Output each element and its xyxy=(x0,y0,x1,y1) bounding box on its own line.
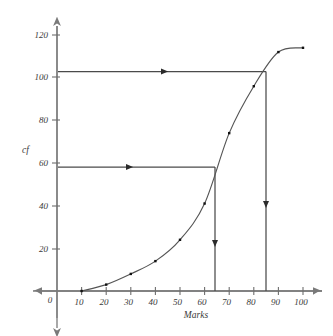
x-tick-label-50: 50 xyxy=(173,297,183,307)
x-tick-label-0: 0 xyxy=(48,295,53,305)
y-tick-label-60: 60 xyxy=(39,158,49,168)
x-tick-label-20: 20 xyxy=(100,297,110,307)
data-point-marker xyxy=(154,260,156,262)
data-point-marker xyxy=(105,283,107,285)
y-tick-label-40: 40 xyxy=(39,201,49,211)
y-tick-label-100: 100 xyxy=(35,72,49,82)
y-tick-label-120: 120 xyxy=(35,30,49,40)
y-tick-label-20: 20 xyxy=(39,244,49,254)
data-point-marker xyxy=(179,239,181,241)
data-point-marker xyxy=(228,132,230,134)
chart-canvas: 20 40 60 80 100 120 cf 0 10 20 30 40 xyxy=(0,0,333,336)
data-point-marker xyxy=(302,47,304,49)
x-tick-label-80: 80 xyxy=(247,297,257,307)
data-point-marker xyxy=(203,202,205,204)
data-point-marker xyxy=(253,85,255,87)
data-point-marker xyxy=(80,290,82,292)
x-tick-label-60: 60 xyxy=(198,297,208,307)
data-point-marker xyxy=(277,51,279,53)
data-point-marker xyxy=(130,273,132,275)
y-tick-label-80: 80 xyxy=(39,115,49,125)
x-tick-label-90: 90 xyxy=(271,297,281,307)
x-tick-label-70: 70 xyxy=(222,297,232,307)
x-tick-label-10: 10 xyxy=(75,297,85,307)
x-axis-title: Marks xyxy=(183,310,209,320)
x-tick-label-100: 100 xyxy=(294,297,308,307)
chart-background xyxy=(0,0,333,336)
x-tick-label-40: 40 xyxy=(149,297,159,307)
x-tick-label-30: 30 xyxy=(123,297,134,307)
ogive-chart-figure: 20 40 60 80 100 120 cf 0 10 20 30 40 xyxy=(0,0,333,336)
